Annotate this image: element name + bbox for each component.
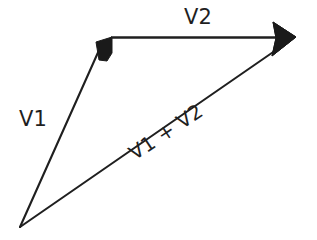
diagram-background — [0, 0, 317, 240]
diagram-canvas — [0, 0, 317, 240]
vector-label-v1: V1 — [19, 109, 47, 130]
vector-label-v2: V2 — [184, 7, 212, 28]
vector-addition-diagram: V2 V1 V1 + V2 — [0, 0, 317, 240]
